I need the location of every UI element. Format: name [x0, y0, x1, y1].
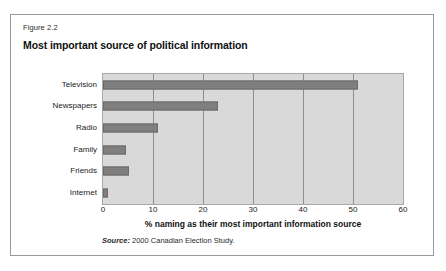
- bar-row: [103, 96, 403, 118]
- bar-row: [103, 161, 403, 183]
- bar-family: [103, 145, 126, 154]
- source-note: Source: 2000 Canadian Election Study.: [102, 236, 234, 245]
- category-label-row: Television: [11, 73, 97, 95]
- x-tick-10: 10: [149, 205, 158, 214]
- category-label-row: Radio: [11, 116, 97, 138]
- category-label-internet: Internet: [70, 188, 97, 197]
- x-tick-20: 20: [199, 205, 208, 214]
- category-label-newspapers: Newspapers: [53, 101, 97, 110]
- category-label-row: Internet: [11, 181, 97, 203]
- chart-plot-area: [102, 73, 404, 205]
- category-label-row: Newspapers: [11, 95, 97, 117]
- bar-radio: [103, 124, 158, 133]
- figure-title: Most important source of political infor…: [23, 39, 248, 51]
- bar-row: [103, 117, 403, 139]
- category-label-friends: Friends: [70, 166, 97, 175]
- source-keyword: Source:: [102, 236, 130, 245]
- category-label-row: Friends: [11, 160, 97, 182]
- x-axis-tick-labels: 0102030405060: [102, 205, 404, 217]
- source-text: 2000 Canadian Election Study.: [130, 236, 235, 245]
- y-axis-category-labels: TelevisionNewspapersRadioFamilyFriendsIn…: [11, 73, 97, 203]
- x-tick-0: 0: [101, 205, 105, 214]
- bar-row: [103, 74, 403, 96]
- bar-television: [103, 80, 358, 89]
- category-label-row: Family: [11, 138, 97, 160]
- category-label-television: Television: [62, 79, 97, 88]
- bar-series: [103, 74, 403, 204]
- bar-row: [103, 182, 403, 204]
- x-tick-50: 50: [349, 205, 358, 214]
- category-label-radio: Radio: [76, 123, 97, 132]
- x-tick-40: 40: [299, 205, 308, 214]
- bar-internet: [103, 189, 108, 198]
- bar-row: [103, 139, 403, 161]
- x-tick-30: 30: [249, 205, 258, 214]
- x-axis-title: % naming as their most important informa…: [102, 219, 404, 229]
- bar-newspapers: [103, 102, 218, 111]
- figure-number-label: Figure 2.2: [23, 23, 58, 32]
- x-tick-60: 60: [399, 205, 408, 214]
- bar-friends: [103, 167, 129, 176]
- figure-frame: Figure 2.2 Most important source of poli…: [10, 14, 434, 256]
- gridline-60: [403, 74, 404, 204]
- category-label-family: Family: [73, 144, 97, 153]
